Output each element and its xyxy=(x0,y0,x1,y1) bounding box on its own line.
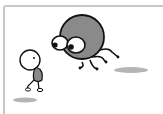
big-creature xyxy=(52,15,119,70)
stick-figure-head xyxy=(20,50,40,70)
stick-figure-shadow xyxy=(13,98,37,103)
cartoon-illustration xyxy=(0,0,163,114)
creature-body xyxy=(60,15,104,59)
stick-figure xyxy=(20,50,43,92)
creature-shadow xyxy=(114,67,148,73)
